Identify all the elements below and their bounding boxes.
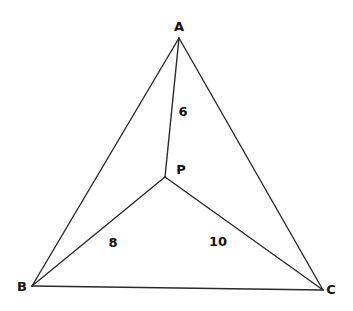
triangle-diagram: A B C P 6 8 10 <box>0 0 353 311</box>
segment-pc <box>165 177 323 290</box>
length-label-pa: 6 <box>178 104 187 119</box>
vertex-label-a: A <box>174 19 184 34</box>
length-label-pc: 10 <box>209 234 227 249</box>
edge-ca <box>179 38 323 290</box>
segment-pb <box>32 177 165 286</box>
edge-bc <box>32 286 323 290</box>
edge-ab <box>32 38 179 286</box>
vertex-label-b: B <box>17 279 27 294</box>
vertex-label-c: C <box>326 282 336 297</box>
length-label-pb: 8 <box>108 235 117 250</box>
vertex-label-p: P <box>176 162 186 177</box>
